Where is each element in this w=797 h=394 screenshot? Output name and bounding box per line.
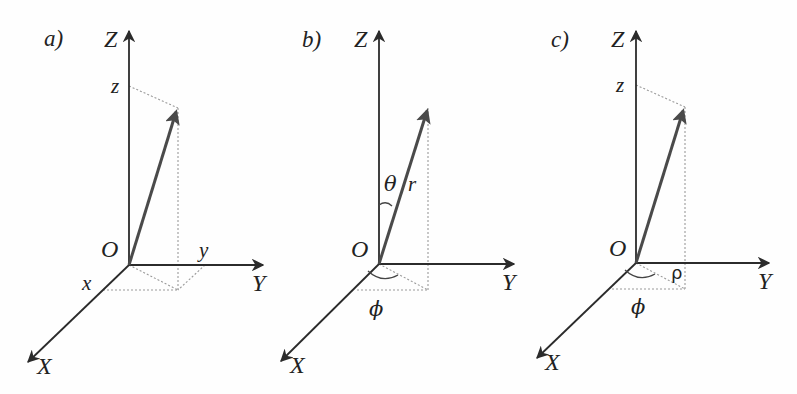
x-axis-label: X	[36, 353, 53, 379]
panel-b-spherical: b) Z Y X O θ r ϕ	[281, 26, 518, 378]
z-component-label: z	[110, 74, 119, 98]
x-axis-label: X	[544, 349, 561, 375]
panel-c-cylindrical: c) Z Y X O z ρ ϕ	[537, 26, 774, 375]
x-axis	[28, 265, 129, 362]
origin-label: O	[351, 236, 368, 262]
phi-label: ϕ	[369, 297, 383, 321]
x-component-label: x	[81, 271, 92, 295]
theta-label: θ	[384, 172, 397, 196]
y-component-label: y	[197, 238, 209, 262]
phi-label: ϕ	[631, 295, 645, 319]
y-axis-label: Y	[502, 269, 518, 295]
y-axis-label: Y	[252, 270, 268, 296]
z-component-label: z	[615, 73, 624, 97]
panel-c-label: c)	[551, 27, 569, 52]
panel-a-label: a)	[44, 26, 63, 51]
y-axis-label: Y	[758, 268, 774, 294]
x-axis	[537, 263, 636, 358]
projection-lines	[357, 108, 428, 290]
z-axis-label: Z	[354, 26, 368, 52]
x-axis-label: X	[289, 352, 306, 378]
z-axis-label: Z	[611, 26, 625, 52]
coordinate-systems-figure: a) Z Y X O z y x b)	[0, 0, 797, 394]
position-vector	[636, 111, 683, 263]
r-label: r	[408, 172, 417, 196]
origin-label: O	[609, 235, 626, 261]
x-axis	[281, 264, 379, 361]
panel-a-cartesian: a) Z Y X O z y x	[28, 26, 268, 379]
rho-label: ρ	[671, 262, 682, 283]
z-axis-label: Z	[104, 26, 118, 52]
theta-arc	[379, 203, 392, 206]
panel-b-label: b)	[302, 27, 321, 52]
origin-label: O	[101, 236, 118, 262]
position-vector	[129, 112, 176, 265]
